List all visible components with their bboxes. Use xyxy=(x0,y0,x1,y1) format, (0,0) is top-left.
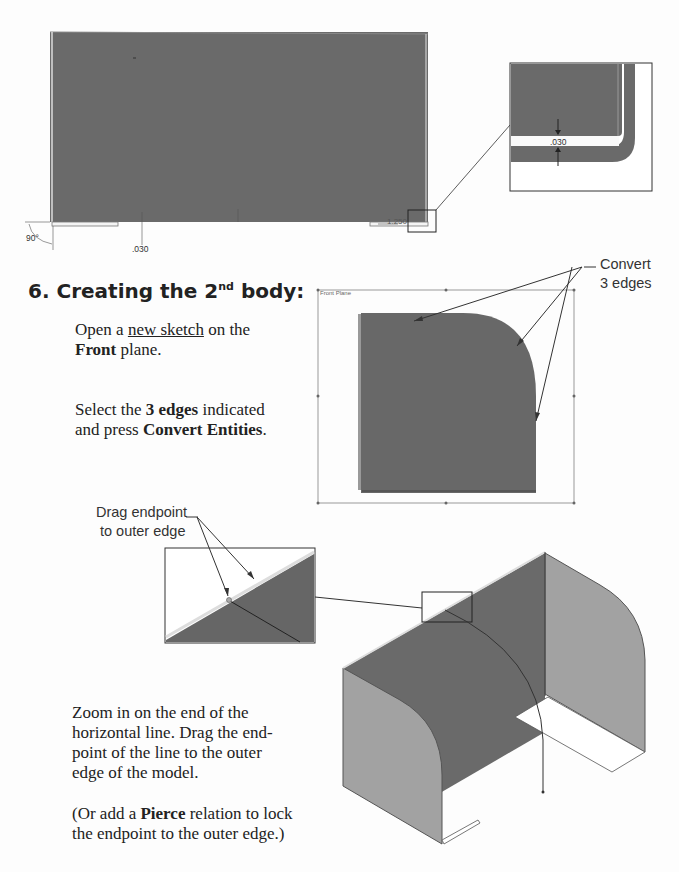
front-plane-sketch-figure: Front Plane Convert 3 edges xyxy=(0,250,679,510)
zoom-detail-thickness: .030 xyxy=(550,137,567,147)
front-plane-drawing xyxy=(0,250,679,510)
instruction-drag-endpoint: Zoom in on the end of the horizontal lin… xyxy=(72,703,312,783)
angle-dimension: 90° xyxy=(26,233,39,243)
drag-endpoint-callout: Drag endpoint to outer edge xyxy=(96,503,187,541)
instruction-pierce-relation: (Or add a Pierce relation to lock the en… xyxy=(72,804,332,844)
top-front-view-figure: 90° .030 1.250 .030 xyxy=(0,0,679,250)
front-plane-label: Front Plane xyxy=(320,290,351,296)
convert-3-edges-callout: Convert 3 edges xyxy=(600,255,652,293)
length-dimension: 1.250 xyxy=(387,217,407,226)
front-view-drawing xyxy=(0,0,679,250)
